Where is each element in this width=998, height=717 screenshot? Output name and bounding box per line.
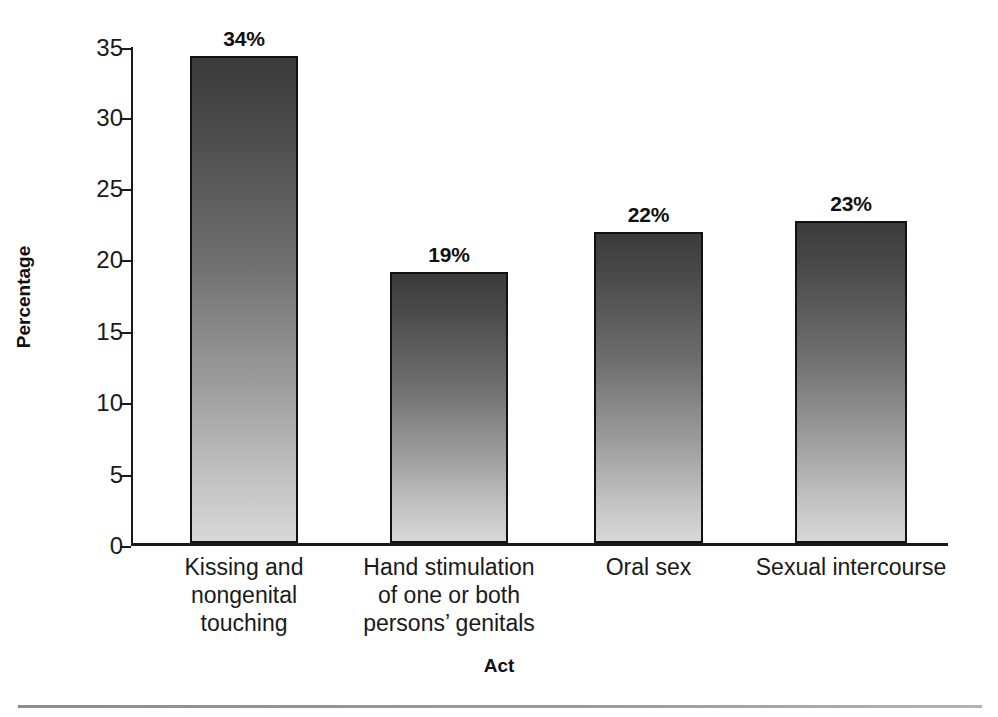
y-axis-line [131, 47, 133, 546]
y-tick-label: 5 [110, 463, 123, 487]
y-tick-label: 25 [96, 177, 123, 201]
y-tick-label: 35 [96, 36, 123, 60]
x-axis-line [131, 543, 948, 546]
x-category-label: Sexual intercourse [736, 553, 966, 581]
x-category-label: Hand stimulation of one or both persons’… [334, 553, 564, 637]
bar-sexual-intercourse: 23% Sexual intercourse [795, 221, 907, 543]
bar-value-label: 34% [223, 27, 264, 51]
y-tick-label: 10 [96, 391, 123, 415]
bar-value-label: 23% [830, 192, 871, 216]
y-tick-label: 20 [96, 248, 123, 272]
x-category-label: Kissing and nongenital touching [129, 553, 359, 637]
footer-divider [18, 705, 982, 708]
bar-chart-figure: Percentage 0 5 10 15 20 25 [0, 0, 998, 717]
bar-value-label: 22% [628, 203, 669, 227]
x-category-label: Oral sex [534, 553, 764, 581]
y-tick-label: 0 [110, 534, 123, 558]
bar-hand-stimulation: 19% Hand stimulation of one or both pers… [390, 272, 508, 543]
y-axis-title: Percentage [13, 246, 35, 348]
plot-area: 0 5 10 15 20 25 30 35 [131, 47, 948, 546]
bar-value-label: 19% [428, 243, 469, 267]
y-tick-label: 15 [96, 320, 123, 344]
bar-kissing-and-nongenital-touching: 34% Kissing and nongenital touching [190, 56, 298, 543]
x-axis-title: Act [0, 655, 998, 677]
bar-oral-sex: 22% Oral sex [594, 232, 703, 543]
y-tick-label: 30 [96, 106, 123, 130]
